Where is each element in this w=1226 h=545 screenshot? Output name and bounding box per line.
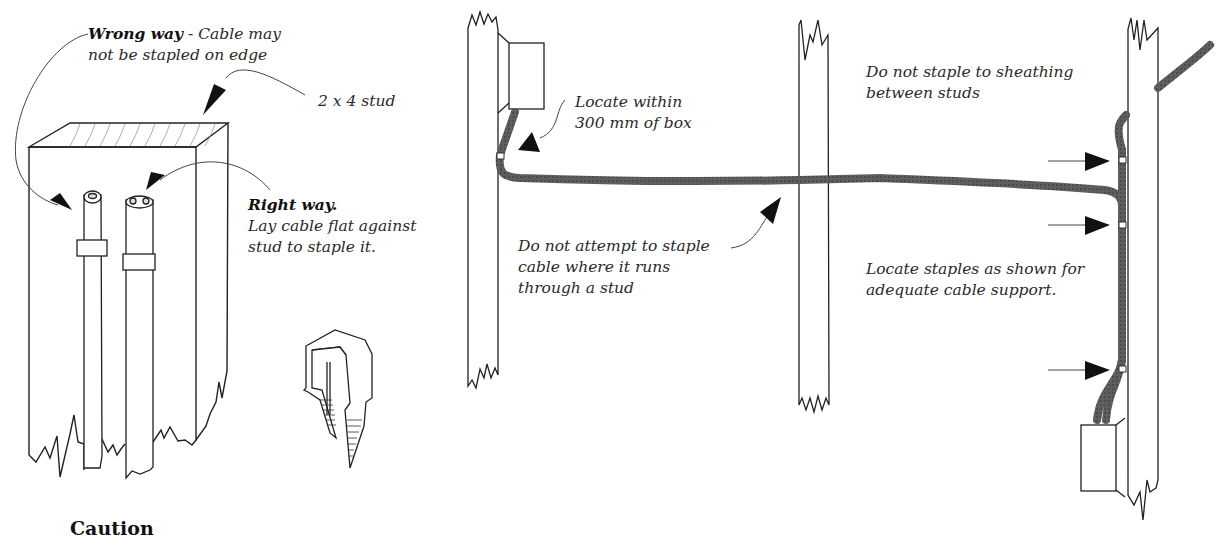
staple-arrow-1-icon	[1085, 152, 1110, 171]
outlet-box-top	[498, 33, 544, 113]
locate-box-label: Locate within 300 mm of box	[575, 92, 692, 134]
wrong-way-text-line2: not be stapled on edge	[88, 46, 267, 64]
right-way-text-line1: Lay cable flat against	[248, 217, 416, 235]
cable-staple-icon	[304, 330, 372, 468]
cable-flat	[123, 196, 155, 478]
wrong-way-leader	[15, 34, 88, 205]
right-way-arrow-icon	[146, 172, 165, 190]
wrong-way-label: Wrong way - Cable may not be stapled on …	[88, 23, 281, 66]
outlet-box-bottom	[1081, 418, 1125, 497]
stud-right	[1128, 18, 1158, 520]
right-way-text-line2: stud to staple it.	[248, 238, 376, 256]
right-way-leader	[160, 162, 270, 190]
wrong-way-title: Wrong way	[88, 24, 183, 43]
stud-leader	[226, 70, 305, 95]
staple-right-1	[1119, 157, 1126, 163]
right-way-label: Right way. Lay cable flat against stud t…	[248, 194, 416, 258]
stud-label: 2 x 4 stud	[318, 91, 395, 112]
staple-right-3	[1119, 366, 1126, 372]
stud-left	[468, 12, 498, 388]
locate-box-arrow-icon	[518, 132, 540, 152]
wrong-way-text-line1: Cable may	[198, 25, 281, 43]
caution-heading: Caution	[70, 517, 154, 539]
locate-staples-label: Locate staples as shown for adequate cab…	[866, 259, 1084, 301]
wrong-way-arrow-icon	[50, 193, 72, 210]
no-staple-through-stud-label: Do not attempt to staple cable where it …	[518, 236, 710, 299]
through-stud-leader	[731, 213, 770, 248]
right-way-title: Right way.	[248, 195, 337, 214]
stud-arrow-icon	[203, 84, 226, 115]
staple-right-2	[1119, 222, 1126, 228]
staple-arrow-3-icon	[1085, 361, 1110, 380]
staple-near-top-box	[497, 153, 504, 159]
no-sheathing-label: Do not staple to sheathing between studs	[866, 62, 1073, 104]
stud-middle	[799, 20, 829, 412]
through-stud-arrow-icon	[760, 197, 781, 224]
staple-arrow-2-icon	[1085, 216, 1110, 235]
cable-on-edge	[77, 191, 107, 468]
